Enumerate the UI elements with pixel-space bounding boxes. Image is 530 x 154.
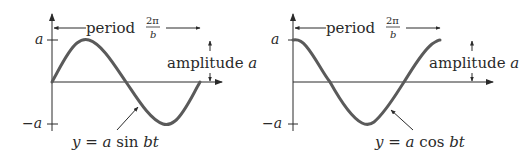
sine-equation: y = a sin bt [71, 133, 160, 151]
period-denominator: b [390, 29, 396, 40]
amplitude-label: amplitude a [167, 54, 257, 72]
period-numerator: 2π [146, 15, 159, 26]
amplitude-label: amplitude a [429, 54, 519, 72]
tick-label-a: a [271, 31, 279, 47]
period-numerator: 2π [386, 15, 399, 26]
equation-pointer [391, 110, 413, 130]
tick-label-neg-a: −a [262, 115, 282, 131]
sine-graph: a −a period 2π b amplitude a y = a sin b… [22, 14, 257, 151]
cosine-equation: y = a cos bt [374, 133, 466, 151]
tick-label-a: a [35, 31, 43, 47]
period-label: period [86, 19, 135, 37]
equation-pointer [117, 107, 138, 130]
tick-label-neg-a: −a [22, 115, 42, 131]
period-denominator: b [150, 29, 156, 40]
trig-graphs-figure: a −a period 2π b amplitude a y = a sin b… [0, 0, 530, 154]
cosine-graph: a −a period 2π b amplitude a y = a cos b… [262, 14, 519, 151]
period-label: period [326, 19, 375, 37]
